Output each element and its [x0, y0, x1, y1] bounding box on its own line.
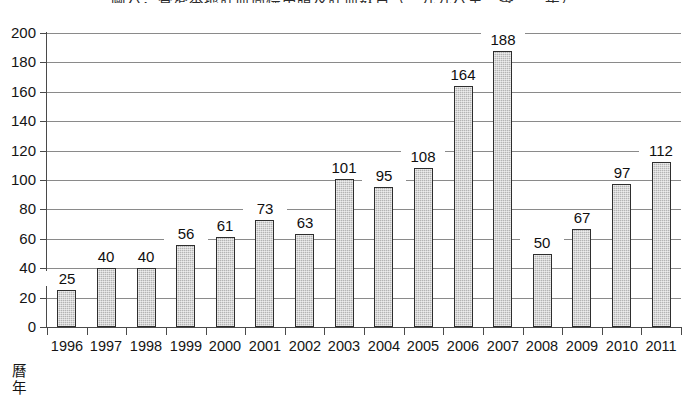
bar-1997[interactable]: [97, 268, 116, 327]
bar-2000[interactable]: [216, 237, 235, 327]
value-label-2000: 61: [203, 218, 247, 233]
x-axis-label-char-0: 曆: [12, 363, 42, 380]
x-tick-label-2001: 2001: [243, 338, 287, 355]
y-tick-label-0: 0: [0, 319, 36, 334]
bar-2001[interactable]: [255, 220, 274, 327]
y-tick-label-40: 40: [0, 260, 36, 275]
x-tick-4: [206, 328, 207, 335]
bar-chart-figure: 200180160140120100806040200 254040566173…: [0, 0, 687, 401]
x-axis-label: 曆年: [12, 363, 42, 397]
value-label-1997: 40: [84, 249, 128, 264]
y-tick-label-140: 140: [0, 113, 36, 128]
x-tick-0: [47, 328, 48, 335]
x-tick-16: [681, 328, 682, 335]
bar-2008[interactable]: [533, 254, 552, 327]
x-tick-label-2003: 2003: [322, 338, 366, 355]
y-tick-200: [40, 33, 47, 34]
value-label-2008: 50: [520, 235, 564, 250]
x-tick-2: [126, 328, 127, 335]
y-tick-label-60: 60: [0, 231, 36, 246]
x-tick-label-1998: 1998: [124, 338, 168, 355]
x-tick-3: [166, 328, 167, 335]
y-tick-20: [40, 298, 47, 299]
y-tick-80: [40, 209, 47, 210]
y-tick-60: [40, 239, 47, 240]
x-tick-7: [324, 328, 325, 335]
bar-1998[interactable]: [137, 268, 156, 327]
x-tick-label-2006: 2006: [441, 338, 485, 355]
y-tick-140: [40, 121, 47, 122]
y-tick-160: [40, 92, 47, 93]
bar-2009[interactable]: [572, 229, 591, 327]
x-tick-9: [404, 328, 405, 335]
y-tick-0: [40, 327, 47, 328]
gridline-180: [47, 62, 681, 63]
x-tick-label-2008: 2008: [520, 338, 564, 355]
x-tick-label-1997: 1997: [84, 338, 128, 355]
y-tick-label-20: 20: [0, 290, 36, 305]
x-axis-label-char-1: 年: [12, 380, 42, 397]
y-tick-180: [40, 62, 47, 63]
bar-1999[interactable]: [176, 245, 195, 327]
x-tick-label-2007: 2007: [481, 338, 525, 355]
gridline-200: [47, 33, 681, 34]
y-tick-label-160: 160: [0, 84, 36, 99]
gridline-160: [47, 92, 681, 93]
x-tick-14: [602, 328, 603, 335]
gridline-140: [47, 121, 681, 122]
x-tick-label-1996: 1996: [45, 338, 89, 355]
value-label-2002: 63: [283, 215, 327, 230]
x-tick-13: [562, 328, 563, 335]
value-label-1998: 40: [124, 249, 168, 264]
value-label-1996: 25: [45, 271, 89, 286]
value-label-2001: 73: [243, 201, 287, 216]
value-label-1999: 56: [164, 226, 208, 241]
bar-2005[interactable]: [414, 168, 433, 327]
x-tick-label-2011: 2011: [639, 338, 683, 355]
x-tick-10: [443, 328, 444, 335]
y-tick-label-200: 200: [0, 25, 36, 40]
y-tick-label-80: 80: [0, 201, 36, 216]
x-tick-15: [641, 328, 642, 335]
x-tick-12: [523, 328, 524, 335]
y-tick-100: [40, 180, 47, 181]
x-tick-label-2010: 2010: [600, 338, 644, 355]
x-tick-8: [364, 328, 365, 335]
y-tick-120: [40, 151, 47, 152]
x-tick-label-2000: 2000: [203, 338, 247, 355]
x-tick-label-2005: 2005: [401, 338, 445, 355]
x-tick-label-2004: 2004: [362, 338, 406, 355]
x-tick-label-2002: 2002: [283, 338, 327, 355]
x-tick-6: [285, 328, 286, 335]
bar-2011[interactable]: [652, 162, 671, 327]
value-label-2003: 101: [322, 160, 366, 175]
x-tick-5: [245, 328, 246, 335]
x-tick-label-1999: 1999: [164, 338, 208, 355]
bar-2002[interactable]: [295, 234, 314, 327]
bar-2003[interactable]: [335, 179, 354, 327]
value-label-2006: 164: [441, 67, 485, 82]
bar-1996[interactable]: [57, 290, 76, 327]
x-tick-11: [483, 328, 484, 335]
y-tick-40: [40, 268, 47, 269]
bar-2010[interactable]: [612, 184, 631, 327]
value-label-2007: 188: [481, 32, 525, 47]
bar-2007[interactable]: [493, 51, 512, 327]
bar-2004[interactable]: [374, 187, 393, 327]
value-label-2010: 97: [600, 165, 644, 180]
bar-2006[interactable]: [454, 86, 473, 327]
value-label-2005: 108: [401, 149, 445, 164]
gridline-120: [47, 151, 681, 152]
value-label-2004: 95: [362, 168, 406, 183]
y-tick-label-100: 100: [0, 172, 36, 187]
value-label-2011: 112: [639, 143, 683, 158]
y-tick-label-120: 120: [0, 143, 36, 158]
x-tick-label-2009: 2009: [560, 338, 604, 355]
value-label-2009: 67: [560, 210, 604, 225]
x-tick-1: [87, 328, 88, 335]
y-tick-label-180: 180: [0, 54, 36, 69]
